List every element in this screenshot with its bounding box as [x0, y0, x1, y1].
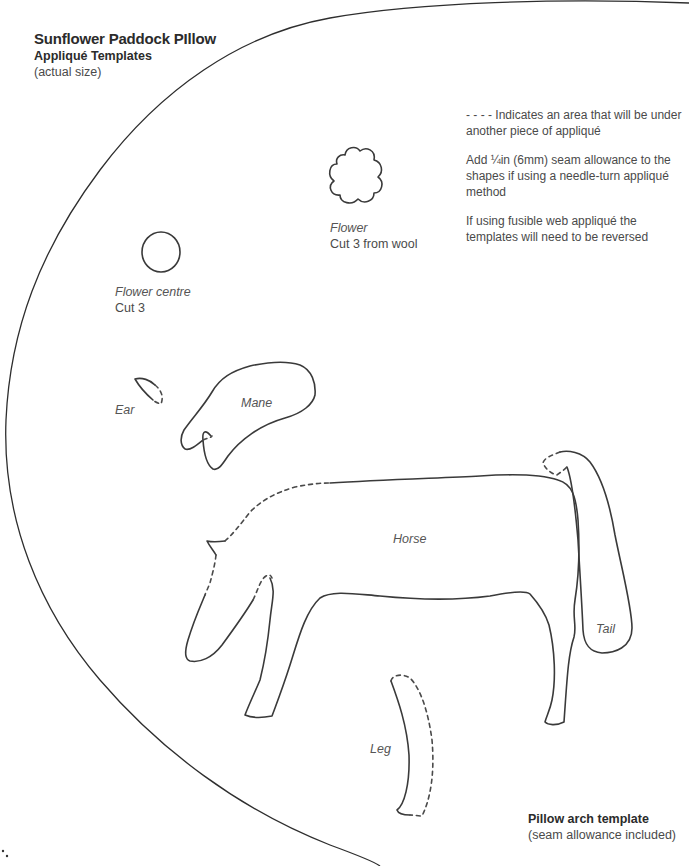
flower-label: Flower: [330, 220, 368, 237]
ear-shape-dashed: [153, 385, 162, 404]
instructions-block: - - - - Indicates an area that will be u…: [466, 107, 686, 258]
mane-shape-dashed: [203, 436, 212, 440]
print-mark-dot: [6, 855, 8, 857]
horse-neck-dashed: [225, 483, 330, 541]
tail-label: Tail: [596, 621, 615, 638]
leg-shape-dashed: [391, 675, 433, 816]
horse-head-solid: [186, 595, 253, 661]
page-size-note: (actual size): [34, 64, 101, 81]
leg-shape-solid: [391, 681, 410, 815]
mane-label: Mane: [241, 395, 272, 412]
pillow-arch-note: (seam allowance included): [528, 827, 676, 844]
pillow-arch-title: Pillow arch template: [528, 811, 649, 828]
horse-foreleg-dashed: [253, 575, 272, 600]
horse-label: Horse: [393, 531, 426, 548]
instruction-fusible-web: If using fusible web appliqué the templa…: [466, 213, 686, 245]
flower-centre-instruction: Cut 3: [115, 300, 145, 317]
flower-centre-shape: [142, 232, 180, 272]
mane-shape-solid: [181, 362, 315, 469]
ear-shape-solid: [135, 378, 155, 400]
instruction-seam-allowance: Add ¼in (6mm) seam allowance to the shap…: [466, 152, 686, 200]
instruction-dashed-line: - - - - Indicates an area that will be u…: [466, 107, 686, 139]
page-title: Sunflower Paddock PIllow: [34, 30, 216, 47]
page-subtitle: Appliqué Templates: [34, 48, 152, 65]
applique-template-page: Sunflower Paddock PIllow Appliqué Templa…: [0, 0, 689, 866]
horse-face-dashed: [205, 555, 216, 595]
ear-label: Ear: [115, 402, 134, 419]
flower-centre-label: Flower centre: [115, 284, 191, 301]
horse-body-solid: [245, 475, 579, 725]
flower-instruction: Cut 3 from wool: [330, 236, 418, 253]
horse-ear-notch: [207, 541, 225, 555]
flower-shape: [330, 148, 382, 203]
leg-label: Leg: [370, 741, 391, 758]
print-mark-dot: [2, 850, 4, 852]
tail-shape-dashed: [543, 452, 567, 475]
